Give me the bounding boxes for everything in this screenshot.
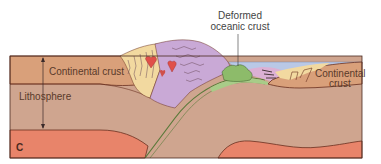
collision-cross-section xyxy=(0,0,381,164)
label-continental-crust-left: Continental crust xyxy=(49,66,124,77)
label-deformed-2: oceanic crust xyxy=(200,21,280,32)
label-lithosphere: Lithosphere xyxy=(19,91,71,102)
panel-letter: C xyxy=(16,142,23,153)
label-deformed-1: Deformed xyxy=(218,10,262,21)
label-continental-crust-right-2: crust xyxy=(329,78,351,89)
asthenosphere-left xyxy=(10,130,148,158)
